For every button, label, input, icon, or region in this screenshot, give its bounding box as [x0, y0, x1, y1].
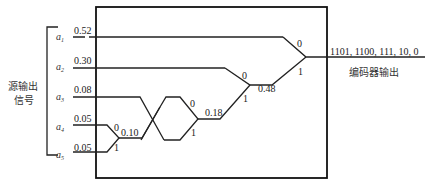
svg-text:0: 0 — [297, 38, 302, 49]
svg-text:a5: a5 — [56, 149, 64, 161]
merge-0.48 — [225, 57, 306, 85]
output-codes: 1101, 1100, 111, 10, 0 — [330, 46, 419, 57]
cross-line — [141, 107, 160, 140]
svg-text:1: 1 — [114, 142, 119, 153]
merged-values: 0.10 0.18 0.48 — [121, 83, 276, 138]
svg-text:0.18: 0.18 — [205, 107, 223, 118]
svg-text:a2: a2 — [56, 61, 64, 73]
svg-text:a1: a1 — [56, 31, 64, 43]
svg-text:1: 1 — [243, 93, 248, 104]
svg-text:1: 1 — [191, 127, 196, 138]
huffman-diagram: 源输出 信号 a1 a2 a3 a4 a5 0.52 0.30 0.08 0.0… — [0, 0, 430, 189]
svg-text:1: 1 — [298, 66, 303, 77]
svg-text:0: 0 — [190, 98, 195, 109]
svg-text:0.10: 0.10 — [121, 127, 139, 138]
svg-text:a4: a4 — [56, 121, 64, 133]
svg-text:a3: a3 — [56, 91, 64, 103]
svg-text:0: 0 — [114, 122, 119, 133]
source-label-1: 源输出 — [8, 80, 38, 92]
output-label: 编码器输出 — [349, 66, 399, 78]
encoder-box — [96, 7, 327, 178]
symbol-labels: a1 a2 a3 a4 a5 — [56, 31, 64, 161]
source-label-2: 信号 — [14, 95, 34, 106]
svg-text:0.52: 0.52 — [74, 25, 92, 36]
svg-text:0.30: 0.30 — [74, 55, 92, 66]
svg-text:0.05: 0.05 — [74, 113, 92, 124]
probabilities: 0.52 0.30 0.08 0.05 0.05 — [74, 25, 92, 153]
bit-labels: 0 1 0 1 0 1 0 1 — [114, 38, 303, 153]
svg-text:0.48: 0.48 — [258, 83, 276, 94]
svg-text:0: 0 — [242, 70, 247, 81]
svg-text:0.08: 0.08 — [74, 84, 92, 95]
